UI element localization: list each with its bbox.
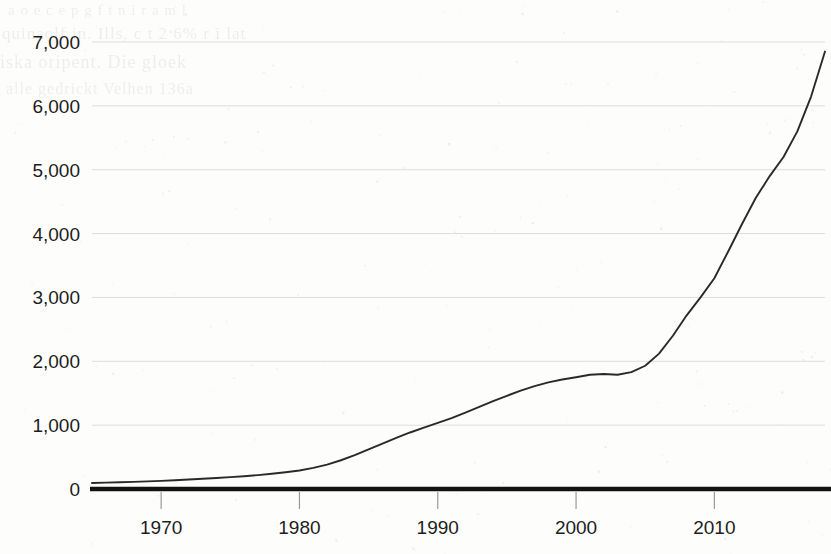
scan-speckle	[600, 262, 601, 263]
scan-speckle	[342, 412, 345, 415]
scan-speckle	[692, 63, 693, 64]
scan-speckle	[801, 49, 802, 50]
scan-speckle	[660, 227, 663, 230]
y-axis-tick-label: 2,000	[32, 351, 80, 372]
scan-speckle	[814, 352, 816, 354]
scan-speckle	[378, 134, 381, 137]
scan-speckle	[578, 225, 580, 227]
scan-speckle	[780, 466, 782, 468]
scan-speckle	[697, 62, 700, 65]
scan-speckle	[198, 46, 199, 47]
scan-speckle	[68, 327, 71, 330]
scan-speckle	[444, 551, 446, 553]
scan-speckle	[187, 137, 190, 140]
scan-speckle	[812, 122, 814, 124]
scan-speckle	[495, 147, 497, 149]
scan-speckle	[746, 406, 748, 408]
scan-speckle	[607, 82, 609, 84]
scan-speckle	[324, 90, 326, 92]
y-axis-tick-label: 7,000	[32, 32, 80, 53]
x-axis-tick-label: 1980	[278, 517, 320, 538]
scan-speckle	[781, 391, 784, 394]
scan-speckle	[367, 284, 368, 285]
scan-speckle	[233, 377, 235, 379]
scan-speckle	[458, 216, 461, 219]
scan-speckle	[251, 364, 253, 366]
scan-speckle	[769, 131, 772, 134]
x-axis-tick-label: 1990	[417, 517, 459, 538]
scan-speckle	[269, 218, 271, 220]
x-axis-tick-labels-group: 19701980199020002010	[140, 517, 735, 538]
scan-speckle	[376, 469, 378, 471]
scan-speckle	[766, 33, 767, 34]
scan-speckle	[420, 73, 421, 74]
scan-speckle	[90, 543, 92, 545]
scan-speckle	[263, 28, 265, 30]
scan-speckle	[601, 21, 602, 22]
scan-speckle	[532, 222, 535, 225]
scan-speckle	[381, 542, 382, 543]
scan-speckle	[502, 482, 504, 484]
scan-speckle	[634, 163, 635, 164]
scan-speckle	[386, 213, 387, 214]
scan-speckle	[715, 4, 716, 5]
scan-speckle	[178, 323, 179, 324]
scan-speckle	[616, 10, 619, 13]
scan-speckle	[789, 219, 790, 220]
scan-speckle	[284, 214, 286, 216]
scan-speckle	[461, 236, 463, 238]
scan-speckle	[424, 264, 425, 265]
scan-speckle	[157, 495, 159, 497]
scan-speckle	[489, 329, 490, 330]
scan-speckle	[211, 431, 213, 433]
scan-speckle	[253, 438, 256, 441]
scan-speckle	[695, 385, 697, 387]
scan-speckle	[604, 446, 606, 448]
scan-speckle	[377, 307, 379, 309]
scan-speckle	[437, 31, 439, 33]
scan-speckle	[124, 140, 127, 143]
scan-speckle	[129, 121, 130, 122]
scan-speckle	[272, 65, 274, 67]
scan-speckle	[520, 217, 522, 219]
scan-speckle	[736, 410, 738, 412]
scan-speckle	[598, 470, 601, 473]
scan-speckle	[618, 392, 620, 394]
scan-speckle	[98, 259, 100, 261]
line-chart: 01,0002,0003,0004,0005,0006,0007,000 197…	[0, 0, 831, 554]
scan-speckle	[765, 122, 768, 125]
scan-speckle	[173, 136, 175, 138]
scan-speckle	[112, 284, 113, 285]
scan-speckle	[48, 487, 49, 488]
scan-speckle	[727, 9, 729, 11]
scan-speckle	[494, 231, 496, 233]
scan-speckle	[170, 31, 173, 34]
scan-speckle	[796, 67, 798, 69]
scan-speckle	[539, 325, 541, 327]
scan-speckle	[21, 123, 23, 125]
scan-speckle	[570, 83, 572, 85]
scan-noise-speckles	[1, 1, 831, 554]
scan-speckle	[757, 62, 758, 63]
scan-speckle	[310, 121, 312, 123]
scan-speckle	[738, 338, 739, 339]
scan-speckle	[143, 370, 145, 372]
scan-speckle	[547, 152, 549, 154]
scan-speckle	[82, 474, 85, 477]
scan-speckle	[226, 321, 228, 323]
scan-speckle	[674, 321, 675, 322]
scan-speckle	[302, 551, 303, 552]
scan-speckle	[371, 510, 373, 512]
scan-speckle	[459, 14, 460, 15]
chart-page: a o e c e p g f t n i r a m l quinaolf i…	[0, 0, 831, 554]
scan-speckle	[696, 370, 698, 372]
scan-speckle	[585, 377, 587, 379]
scan-speckle	[477, 513, 479, 515]
scan-speckle	[630, 526, 632, 528]
scan-speckle	[396, 503, 397, 504]
scan-speckle	[657, 162, 659, 164]
scan-speckle	[476, 313, 478, 315]
scan-speckle	[700, 383, 702, 385]
scan-speckle	[122, 113, 123, 114]
y-axis-tick-label: 4,000	[32, 224, 80, 245]
